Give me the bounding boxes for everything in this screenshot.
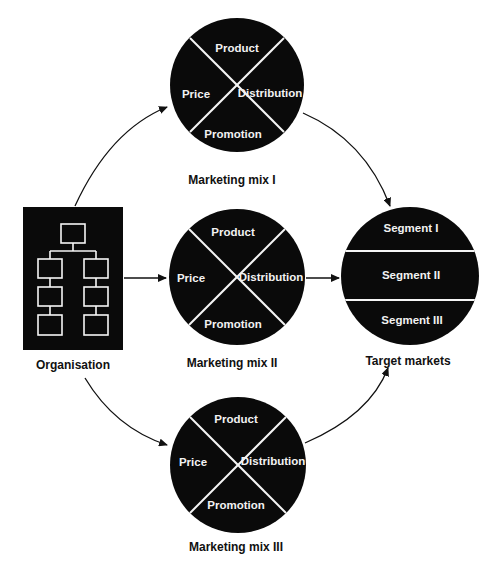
marketing-mix-1: Product Price Distribution Promotion — [170, 18, 304, 152]
arrow-mix-3-to-target — [305, 368, 388, 443]
mix-1-product: Product — [215, 42, 259, 54]
target-markets-label: Target markets — [365, 354, 450, 368]
segment-2: Segment II — [382, 269, 440, 281]
target-markets-circle: Segment I Segment II Segment III — [330, 207, 490, 345]
mix-3-distribution: Distribution — [241, 455, 306, 467]
arrow-mix-1-to-target — [303, 113, 390, 206]
mix-3-product: Product — [214, 413, 258, 425]
segment-3: Segment III — [381, 314, 442, 326]
segment-1: Segment I — [384, 222, 439, 234]
marketing-mix-diagram: Organisation Product Price Distribution … — [0, 0, 492, 567]
mix-1-price: Price — [182, 88, 210, 100]
mix-3-promotion: Promotion — [207, 499, 265, 511]
arrow-org-to-mix-1 — [75, 107, 167, 206]
organisation-label: Organisation — [36, 358, 110, 372]
organisation-box — [23, 207, 123, 350]
mix-3-label: Marketing mix III — [189, 540, 283, 554]
mix-2-product: Product — [211, 226, 255, 238]
mix-2-label: Marketing mix II — [187, 356, 278, 370]
mix-2-promotion: Promotion — [204, 318, 262, 330]
mix-1-label: Marketing mix I — [188, 173, 275, 187]
marketing-mix-2: Product Price Distribution Promotion — [169, 209, 305, 345]
marketing-mix-3: Product Price Distribution Promotion — [170, 397, 306, 533]
mix-2-price: Price — [177, 272, 205, 284]
mix-2-distribution: Distribution — [239, 271, 304, 283]
mix-1-promotion: Promotion — [204, 128, 262, 140]
arrow-org-to-mix-3 — [85, 378, 167, 445]
mix-3-price: Price — [179, 456, 207, 468]
mix-1-distribution: Distribution — [238, 87, 303, 99]
